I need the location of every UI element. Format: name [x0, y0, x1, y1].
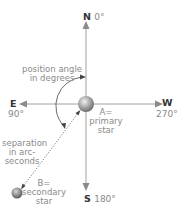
secondary-star-icon	[12, 188, 23, 199]
position-angle-label: position angle in degrees	[22, 65, 82, 83]
north-degrees: 0°	[94, 12, 104, 22]
secondary-line-3: star	[22, 197, 66, 206]
south-label: S 180°	[84, 194, 116, 204]
separation-line-3: seconds	[2, 157, 42, 166]
secondary-star-label: B= secondary star	[22, 179, 66, 206]
east-degrees: 90°	[8, 109, 24, 119]
position-angle-arc	[56, 77, 82, 126]
primary-star-label: A= primary star	[88, 108, 124, 135]
north-letter: N	[83, 11, 91, 22]
primary-line-3: star	[88, 126, 124, 135]
west-label: W	[162, 98, 172, 108]
position-angle-line-2: in degrees	[22, 74, 82, 83]
separation-arrow-a-icon	[76, 110, 81, 116]
south-arrow-icon	[83, 183, 90, 191]
north-arrow-icon	[83, 21, 90, 29]
east-arrow-icon	[19, 101, 27, 108]
west-letter: W	[162, 97, 172, 108]
east-degrees-wrap: 90°	[8, 109, 24, 119]
north-label: N 0°	[83, 12, 105, 22]
separation-label: separation in arc- seconds	[2, 139, 42, 166]
arc-end-arrowhead-icon	[61, 123, 66, 129]
west-degrees: 270°	[156, 109, 178, 119]
west-degrees-wrap: 270°	[156, 109, 178, 119]
south-letter: S	[84, 193, 91, 204]
east-label: E	[10, 99, 17, 109]
position-angle-diagram	[0, 0, 179, 209]
east-letter: E	[10, 98, 17, 109]
south-degrees: 180°	[94, 194, 116, 204]
